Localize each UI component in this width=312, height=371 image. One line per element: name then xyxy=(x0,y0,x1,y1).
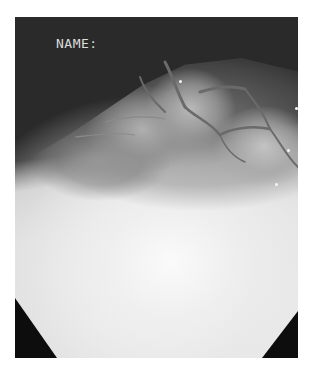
light-reflection xyxy=(275,183,278,186)
name-overlay-label: NAME: xyxy=(56,36,98,51)
light-reflection xyxy=(295,107,298,110)
light-reflection xyxy=(179,80,182,83)
vessel-pattern xyxy=(15,17,298,358)
light-reflection xyxy=(287,149,290,152)
endoscopic-image: NAME: xyxy=(15,17,298,358)
